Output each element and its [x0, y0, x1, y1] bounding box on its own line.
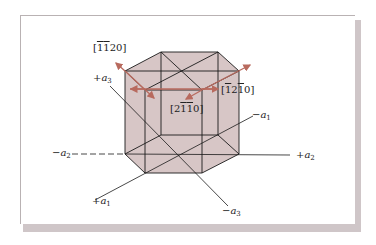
label-direction-21bar1bar0: [2110]: [170, 104, 203, 114]
label-direction-11bar20: [1120]: [93, 43, 126, 53]
label-plus-a1: +a1: [92, 196, 111, 208]
arrow-11bar20: [116, 63, 125, 71]
label-direction-1bar21bar0: [1210]: [221, 85, 254, 95]
label-minus-a2: −a2: [52, 148, 71, 160]
label-plus-a2: +a2: [296, 150, 315, 162]
label-minus-a3: −a3: [222, 206, 241, 218]
label-minus-a1: −a1: [252, 110, 271, 122]
label-plus-a3: +a3: [93, 73, 112, 85]
crystal-diagram: [0, 0, 376, 245]
